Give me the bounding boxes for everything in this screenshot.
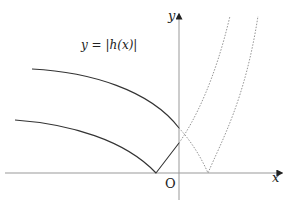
graph-canvas xyxy=(0,0,289,207)
diagram: y = |h(x)| y x O xyxy=(0,0,289,207)
x-axis-label: x xyxy=(272,170,279,185)
dotted-v-curve xyxy=(179,16,258,173)
y-axis-label: y xyxy=(168,8,175,23)
solid-upper-curve xyxy=(32,69,179,128)
dotted-rising-curve xyxy=(179,16,230,143)
function-label: y = |h(x)| xyxy=(81,38,137,52)
solid-lower-curve xyxy=(15,120,179,173)
origin-label: O xyxy=(165,176,176,191)
